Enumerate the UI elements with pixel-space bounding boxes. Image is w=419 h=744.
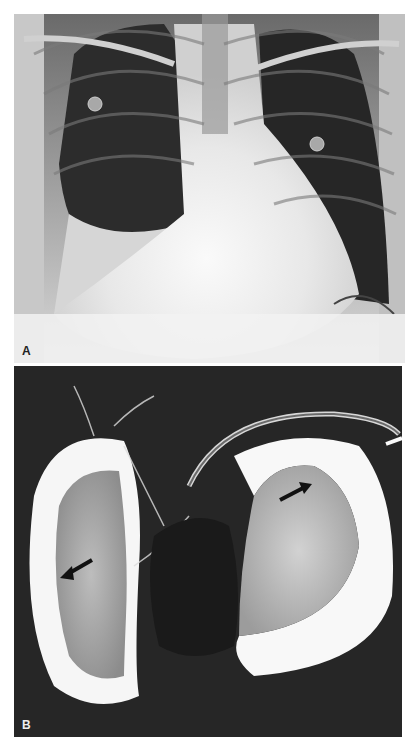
panel-label-a: A [22,345,31,357]
radiograph-panel-a: A [14,14,405,363]
panel-label-b: B [22,719,31,731]
radiograph-panel-b: B [14,366,402,737]
electrode-marker-icon [88,97,102,111]
chest-xray-image [14,14,405,363]
electrode-marker-icon [310,137,324,151]
angiogram-image [14,366,402,737]
